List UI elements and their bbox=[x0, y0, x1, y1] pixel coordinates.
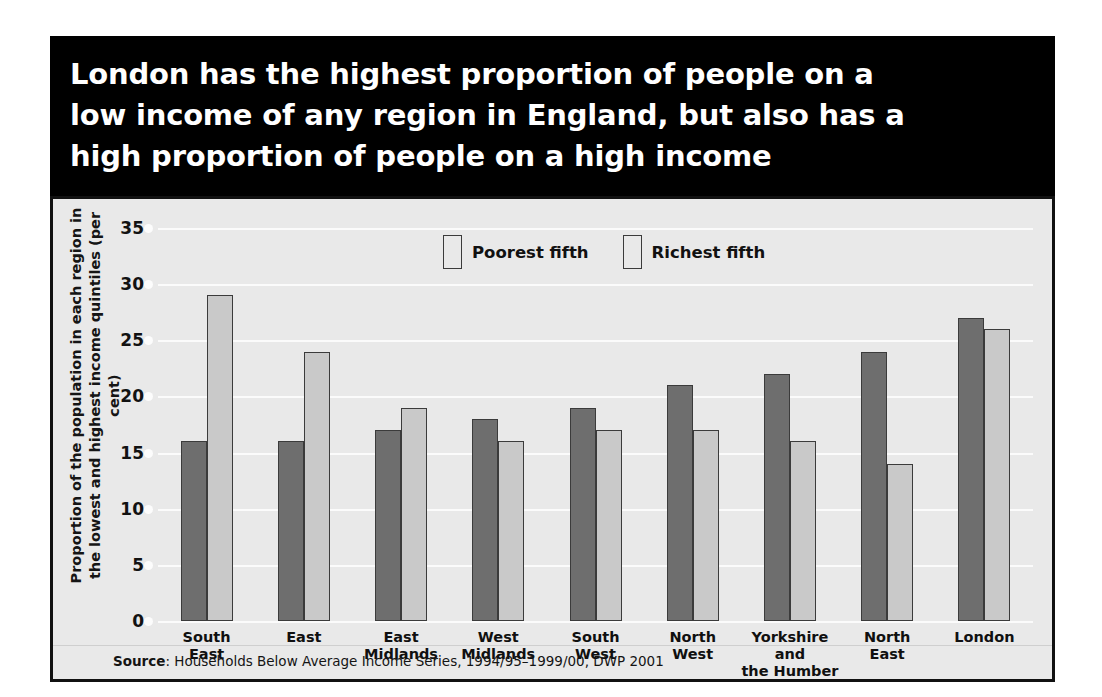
figure: London has the highest proportion of peo… bbox=[50, 36, 1055, 682]
source-label: Source bbox=[113, 653, 165, 669]
bar-richest bbox=[790, 441, 816, 621]
bar-richest bbox=[984, 329, 1010, 621]
y-tick-label: 35 bbox=[84, 218, 144, 238]
source-bar: Source: Households Below Average Income … bbox=[53, 645, 1052, 679]
bar-richest bbox=[401, 408, 427, 621]
y-tick-marker bbox=[144, 617, 153, 626]
bar-richest bbox=[304, 352, 330, 621]
plot-area: 05101520253035 South EastEastEast Midlan… bbox=[158, 228, 1033, 657]
bar-group bbox=[958, 228, 1010, 621]
bar-poorest bbox=[861, 352, 887, 621]
bar-richest bbox=[498, 441, 524, 621]
y-tick-label: 25 bbox=[84, 330, 144, 350]
y-tick-label: 20 bbox=[84, 386, 144, 406]
y-tick-marker bbox=[144, 449, 153, 458]
chart-panel: Proportion of the population in each reg… bbox=[50, 196, 1055, 682]
bar-poorest bbox=[958, 318, 984, 621]
y-tick-label: 15 bbox=[84, 443, 144, 463]
x-tick-label: East bbox=[255, 629, 352, 646]
y-tick-label: 5 bbox=[84, 555, 144, 575]
y-tick-marker bbox=[144, 392, 153, 401]
x-tick-label: London bbox=[936, 629, 1033, 646]
bar-richest bbox=[887, 464, 913, 621]
chart-title: London has the highest proportion of peo… bbox=[70, 54, 1035, 177]
bar-poorest bbox=[764, 374, 790, 621]
bar-group bbox=[472, 228, 524, 621]
bar-poorest bbox=[570, 408, 596, 621]
bar-poorest bbox=[375, 430, 401, 621]
bar-poorest bbox=[667, 385, 693, 621]
gridline bbox=[158, 621, 1033, 623]
source-value: Households Below Average Income Series, … bbox=[174, 653, 664, 669]
bar-group bbox=[181, 228, 233, 621]
y-tick-label: 30 bbox=[84, 274, 144, 294]
bar-group bbox=[861, 228, 913, 621]
y-tick-label: 10 bbox=[84, 499, 144, 519]
bar-group bbox=[375, 228, 427, 621]
y-tick-marker bbox=[144, 224, 153, 233]
bar-group bbox=[667, 228, 719, 621]
bar-group bbox=[570, 228, 622, 621]
bar-poorest bbox=[181, 441, 207, 621]
bar-poorest bbox=[278, 441, 304, 621]
bar-richest bbox=[207, 295, 233, 621]
y-tick-marker bbox=[144, 336, 153, 345]
y-tick-marker bbox=[144, 505, 153, 514]
y-tick-marker bbox=[144, 561, 153, 570]
source-separator: : bbox=[165, 653, 174, 669]
title-band: London has the highest proportion of peo… bbox=[50, 36, 1055, 196]
bar-richest bbox=[596, 430, 622, 621]
y-tick-marker bbox=[144, 280, 153, 289]
bar-richest bbox=[693, 430, 719, 621]
bar-poorest bbox=[472, 419, 498, 621]
bar-group bbox=[278, 228, 330, 621]
source-note: Source: Households Below Average Income … bbox=[113, 653, 664, 669]
y-tick-label: 0 bbox=[84, 611, 144, 631]
bar-group bbox=[764, 228, 816, 621]
bar-groups bbox=[158, 228, 1033, 621]
